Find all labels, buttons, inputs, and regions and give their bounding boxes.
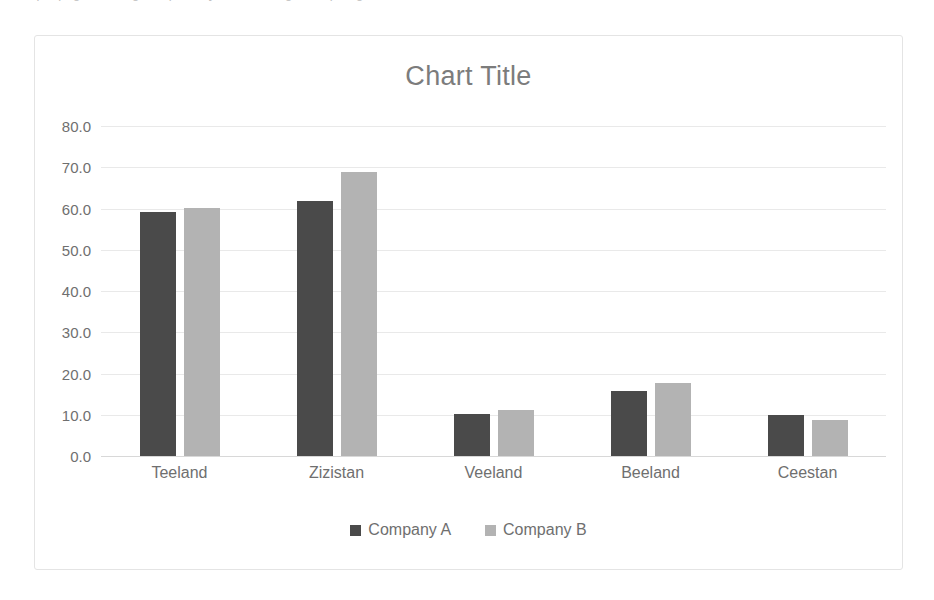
legend-item[interactable]: Company B <box>485 521 587 539</box>
x-axis-tick-label: Teeland <box>120 464 240 482</box>
y-axis-tick-label: 0.0 <box>37 448 91 465</box>
y-axis-tick-label: 50.0 <box>37 241 91 258</box>
legend-label: Company B <box>503 521 587 539</box>
x-axis-tick-label: Zizistan <box>277 464 397 482</box>
x-axis-tick-label: Veeland <box>434 464 554 482</box>
bar[interactable] <box>768 415 804 456</box>
y-axis-tick-label: 70.0 <box>37 159 91 176</box>
bar[interactable] <box>184 208 220 456</box>
legend-swatch-icon <box>485 525 496 536</box>
bar[interactable] <box>297 201 333 456</box>
chart-frame[interactable]: Chart Title 80.070.060.050.040.030.020.0… <box>34 35 903 570</box>
bar[interactable] <box>140 212 176 456</box>
x-axis: TeelandZizistanVeelandBeelandCeestan <box>101 464 886 492</box>
bar[interactable] <box>655 383 691 456</box>
bar[interactable] <box>812 420 848 456</box>
bar-group <box>611 126 691 456</box>
bar-group <box>768 126 848 456</box>
y-axis-tick-label: 20.0 <box>37 365 91 382</box>
legend-swatch-icon <box>350 525 361 536</box>
bar[interactable] <box>498 410 534 456</box>
x-axis-tick-label: Ceestan <box>748 464 868 482</box>
bar-group <box>454 126 534 456</box>
y-axis: 80.070.060.050.040.030.020.010.00.0 <box>35 126 91 456</box>
bar[interactable] <box>341 172 377 456</box>
y-axis-tick-label: 80.0 <box>37 118 91 135</box>
plot-area <box>101 126 886 456</box>
y-axis-tick-label: 40.0 <box>37 283 91 300</box>
bar[interactable] <box>454 414 490 456</box>
bar-group <box>140 126 220 456</box>
legend-item[interactable]: Company A <box>350 521 451 539</box>
chart-title[interactable]: Chart Title <box>35 61 902 92</box>
chart-legend[interactable]: Company ACompany B <box>35 521 902 539</box>
bar[interactable] <box>611 391 647 456</box>
bar-group <box>297 126 377 456</box>
y-axis-tick-label: 30.0 <box>37 324 91 341</box>
clipped-header-text: a sample page heading text partially cut… <box>0 0 934 4</box>
x-axis-tick-label: Beeland <box>591 464 711 482</box>
bars-layer <box>101 126 886 456</box>
gridline <box>101 456 886 457</box>
y-axis-tick-label: 10.0 <box>37 406 91 423</box>
legend-label: Company A <box>368 521 451 539</box>
y-axis-tick-label: 60.0 <box>37 200 91 217</box>
